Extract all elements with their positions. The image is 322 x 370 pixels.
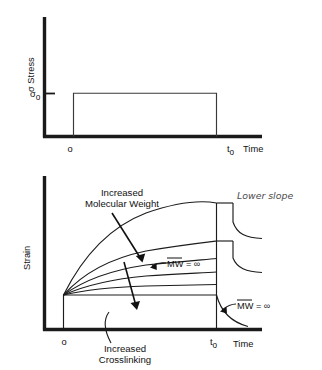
svg-text:to: to <box>210 337 218 350</box>
stress-chart: σ Stress σo o to Time <box>26 17 263 157</box>
strain-recovery-high-mw <box>233 203 262 239</box>
label-mw-lower-base: MW <box>237 301 254 311</box>
label-mw-upper-rest: = ∞ <box>183 259 200 269</box>
stress-step-pulse <box>74 93 217 136</box>
handwritten-annotation-lower-slope: Lower slope <box>237 190 293 201</box>
svg-text:to: to <box>227 144 235 157</box>
stress-x-origin-label: o <box>67 144 72 154</box>
strain-y-axis-label-group: Strain <box>22 246 32 270</box>
strain-x-origin-label: o <box>61 337 66 347</box>
strain-curve-mw-infinite-plateau <box>64 285 217 296</box>
strain-y-axis-label: Strain <box>22 246 32 270</box>
annotation-xl-leader <box>105 312 111 343</box>
annotation-mw-arrow-shaft <box>112 213 141 259</box>
figure-canvas: σ Stress σo o to Time <box>0 0 322 370</box>
stress-sigma-subscript: o <box>36 93 41 102</box>
annotation-increased-crosslinking: Increased Crosslinking <box>99 262 151 365</box>
strain-x-axis-label: Time <box>233 339 253 349</box>
svg-text:MW = ∞: MW = ∞ <box>167 259 200 269</box>
label-mw-infinity-lower: MW = ∞ <box>220 300 270 314</box>
stress-x-end-subscript: o <box>230 148 235 157</box>
strain-recovery-mw-2 <box>233 241 262 273</box>
annotation-xl-line1: Increased <box>104 343 146 354</box>
stress-y-axis-label-group: σ Stress <box>26 57 36 92</box>
annotation-xl-arrow-shaft <box>124 262 136 306</box>
stress-y-axis-text: Stress <box>26 57 36 84</box>
annotation-mw-arrowhead <box>136 254 145 263</box>
creep-recovery-figure: σ Stress σo o to Time <box>0 0 322 370</box>
handwritten-note-text: Lower slope <box>237 190 293 201</box>
annotation-mw-line2: Molecular Weight <box>85 198 159 209</box>
svg-text:σ Stress: σ Stress <box>26 57 36 92</box>
strain-x-end-label-group: to Time <box>210 337 253 350</box>
annotation-xl-arrowhead <box>131 301 141 310</box>
label-mw-lower-rest: = ∞ <box>253 301 270 311</box>
svg-text:MW = ∞: MW = ∞ <box>237 301 270 311</box>
annotation-xl-line2: Crosslinking <box>99 354 151 365</box>
stress-x-end-label-group: to Time <box>227 144 263 157</box>
svg-text:σo: σo <box>30 89 41 102</box>
annotation-mw-line1: Increased <box>101 187 143 198</box>
label-mw-upper-base: MW <box>167 259 184 269</box>
label-mw-infinity-upper: MW = ∞ <box>150 258 200 270</box>
stress-sigma-tick-label: σo <box>30 89 41 102</box>
stress-x-axis-label: Time <box>243 144 263 154</box>
strain-chart: Strain o to Time Increased Molecular Wei… <box>22 176 293 365</box>
strain-x-end-subscript: o <box>213 341 218 350</box>
